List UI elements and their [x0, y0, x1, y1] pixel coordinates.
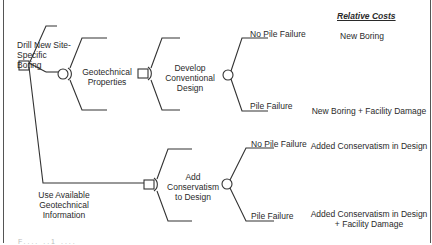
option-use-available-label: Use Available Geotechnical Information — [28, 190, 100, 220]
use-line2: Geotechnical — [28, 200, 100, 210]
develop-line1: Develop — [160, 63, 220, 73]
geotech-line2: Properties — [80, 77, 134, 87]
use-line1: Use Available — [28, 190, 100, 200]
cost-added-conservatism-facility-damage: Added Conservatism in Design + Facility … — [306, 209, 432, 229]
figure-caption: F.... ..1 .... — [18, 238, 77, 245]
cost-added-conservatism: Added Conservatism in Design — [306, 141, 432, 151]
option-drill-label: Drill New Site- Specific Boring — [17, 40, 71, 70]
option-drill-line1: Drill New Site- — [17, 40, 71, 50]
add-line3: to Design — [163, 192, 223, 202]
upper-pile-failure: Pile Failure — [250, 101, 293, 111]
use-line3: Information — [28, 210, 100, 220]
lower-pile-failure: Pile Failure — [251, 211, 294, 221]
geotech-line1: Geotechnical — [80, 67, 134, 77]
develop-line2: Conventional — [160, 73, 220, 83]
develop-design-label: Develop Conventional Design — [160, 63, 220, 93]
cost-line1: Added Conservatism in Design — [306, 209, 432, 219]
lower-no-pile-failure: No Pile Failure — [251, 139, 307, 149]
relative-costs-header: Relative Costs — [337, 11, 396, 21]
option-drill-line3: Boring — [17, 60, 71, 70]
cost-new-boring-facility-damage: New Boring + Facility Damage — [306, 106, 432, 116]
cost-line2: + Facility Damage — [306, 219, 432, 229]
add-conservatism-label: Add Conservatism to Design — [163, 172, 223, 202]
add-line1: Add — [163, 172, 223, 182]
geotech-properties-label: Geotechnical Properties — [80, 67, 134, 87]
upper-no-pile-failure: No Pile Failure — [250, 29, 306, 39]
add-line2: Conservatism — [163, 182, 223, 192]
cost-new-boring: New Boring — [312, 31, 412, 41]
option-drill-line2: Specific — [17, 50, 71, 60]
develop-line3: Design — [160, 83, 220, 93]
